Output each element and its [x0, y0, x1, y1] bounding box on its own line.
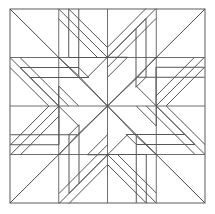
quilt-block-drawing: [0, 0, 215, 214]
pattern-figure: [0, 0, 215, 214]
